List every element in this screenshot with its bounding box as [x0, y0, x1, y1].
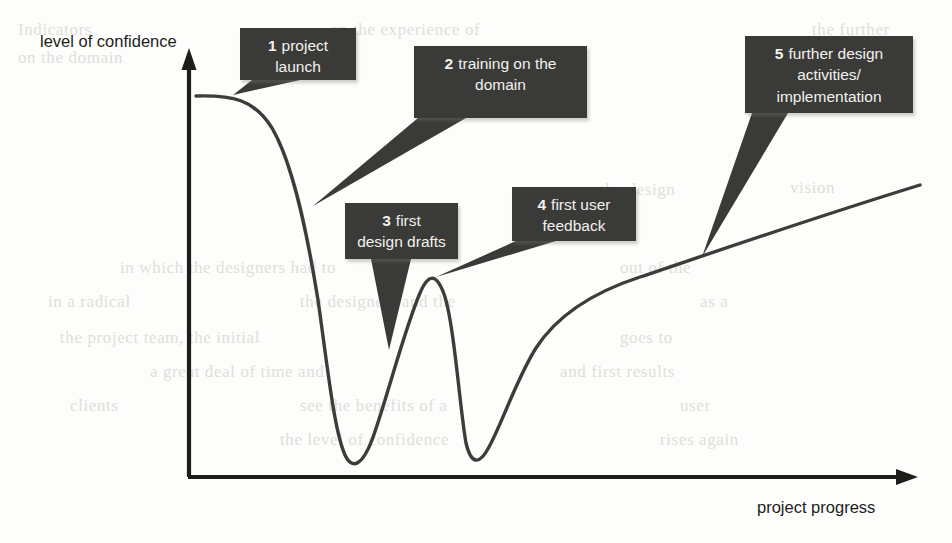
callout-box-5: 5further design activities/ implementati… — [745, 36, 913, 113]
callout-4-line2: feedback — [543, 217, 606, 234]
callout-3-line2: design drafts — [357, 233, 446, 250]
callout-box-3: 3first design drafts — [345, 203, 458, 259]
callout-2-pointer — [313, 118, 466, 206]
callout-2-line1: training on the — [458, 55, 556, 72]
callout-1-pointer — [233, 80, 300, 95]
callout-2-line2: domain — [475, 76, 526, 93]
callout-4-number: 4 — [537, 196, 546, 213]
callout-1-line1: project — [282, 37, 329, 54]
callout-4-line1: first user — [551, 196, 610, 213]
callout-box-4: 4first user feedback — [512, 187, 636, 241]
callout-box-2: 2training on the domain — [414, 46, 587, 118]
callout-5-line3: implementation — [776, 88, 881, 105]
callout-3-number: 3 — [382, 212, 391, 229]
confidence-curve — [196, 96, 920, 464]
callout-5-pointer — [702, 113, 788, 257]
x-axis-label: project progress — [757, 498, 875, 517]
callout-box-1: 1project launch — [240, 28, 356, 80]
callout-3-line1: first — [396, 212, 421, 229]
callout-5-line1: further design — [788, 45, 883, 62]
x-axis — [188, 469, 918, 485]
callout-5-line2: activities/ — [797, 66, 861, 83]
callout-1-line2: launch — [275, 58, 321, 75]
confidence-curve-figure: the furtherIndicatorson the experience o… — [0, 0, 952, 543]
callout-5-number: 5 — [775, 45, 784, 62]
y-axis-arrowhead — [182, 48, 197, 70]
callout-1-number: 1 — [268, 37, 277, 54]
callout-2-number: 2 — [445, 55, 454, 72]
y-axis-label: level of confidence — [40, 32, 177, 51]
x-axis-arrowhead — [896, 469, 918, 485]
y-axis — [182, 48, 197, 477]
